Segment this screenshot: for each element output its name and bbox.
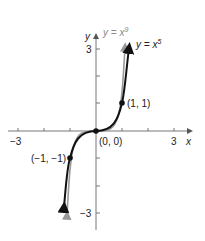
point-label-1-1: (1, 1) [127,98,150,109]
chart: −3 3 x 3 −3 y y = x9 y = x5 (−1, −1) (0,… [0,0,205,241]
y-tick-label-3: 3 [86,44,92,55]
point-label-origin: (0, 0) [99,136,122,147]
curve-label-x9: y = x9 [102,26,128,38]
y-tick-label-neg3: −3 [80,208,92,219]
point-label-neg1-neg1: (−1, −1) [31,153,66,164]
point-1-1 [119,100,125,106]
y-axis-label: y [84,31,91,42]
point-neg1-neg1 [67,155,73,161]
x-tick-label-3: 3 [171,136,177,147]
x-axis-label: x [185,136,192,147]
curve-label-x5: y = x5 [135,38,161,50]
x-tick-label-neg3: −3 [10,136,22,147]
point-origin [93,128,99,134]
